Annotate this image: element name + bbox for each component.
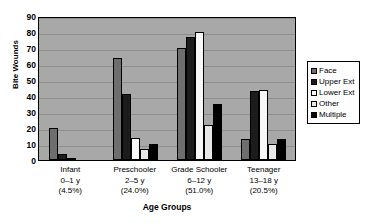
x-category-line-2: 6–12 y: [167, 176, 232, 187]
bar: [195, 32, 204, 160]
x-axis-title: Age Groups: [38, 202, 296, 212]
legend-label: Upper Ext: [319, 78, 355, 86]
legend-label: Lower Ext: [319, 89, 355, 97]
y-tick-10: 10: [14, 141, 36, 150]
x-category-line-1: Grade Schooler: [167, 165, 232, 176]
legend-label: Multiple: [319, 111, 347, 119]
legend-swatch-icon: [311, 68, 317, 74]
bar: [268, 144, 277, 160]
legend-item-face: Face: [311, 65, 355, 76]
bar-group: [39, 18, 103, 160]
y-tick-0: 0: [14, 157, 36, 166]
bar-chart-figure: Bite Wounds 0102030405060708090 Infant0–…: [0, 0, 376, 223]
y-tick-70: 70: [14, 45, 36, 54]
chart-legend: FaceUpper ExtLower ExtOtherMultiple: [307, 61, 360, 124]
bar: [140, 149, 149, 160]
x-category-label: Grade Schooler6–12 y(51.0%): [167, 165, 232, 197]
legend-item-upper-ext: Upper Ext: [311, 76, 355, 87]
legend-item-multiple: Multiple: [311, 109, 355, 120]
x-category-line-1: Preschooler: [103, 165, 168, 176]
y-tick-20: 20: [14, 125, 36, 134]
x-category-line-2: 13–18 y: [232, 176, 297, 187]
y-tick-80: 80: [14, 29, 36, 38]
legend-swatch-icon: [311, 101, 317, 107]
bar: [204, 125, 213, 160]
y-tick-40: 40: [14, 93, 36, 102]
bar: [58, 154, 67, 160]
x-category-line-3: (24.0%): [103, 186, 168, 197]
x-category-line-3: (20.5%): [232, 186, 297, 197]
x-category-label: Preschooler2–5 y(24.0%): [103, 165, 168, 197]
y-tick-60: 60: [14, 61, 36, 70]
plot-area: [38, 17, 296, 161]
bar: [149, 144, 158, 160]
bar: [113, 58, 122, 160]
x-category-line-2: 0–1 y: [38, 176, 103, 187]
bar-series-container: [39, 18, 295, 160]
legend-label: Other: [319, 100, 339, 108]
bar-group: [167, 18, 231, 160]
x-category-line-3: (4.5%): [38, 186, 103, 197]
y-tick-30: 30: [14, 109, 36, 118]
x-category-line-1: Infant: [38, 165, 103, 176]
x-axis-category-labels: Infant0–1 y(4.5%)Preschooler2–5 y(24.0%)…: [38, 165, 296, 197]
y-tick-90: 90: [14, 13, 36, 22]
legend-swatch-icon: [311, 90, 317, 96]
bar: [67, 158, 76, 160]
legend-item-lower-ext: Lower Ext: [311, 87, 355, 98]
legend-label: Face: [319, 67, 337, 75]
y-tick-50: 50: [14, 77, 36, 86]
bar: [177, 48, 186, 160]
bar: [186, 37, 195, 160]
bar: [259, 90, 268, 160]
bar: [131, 138, 140, 160]
bar: [213, 104, 222, 160]
x-category-label: Teenager13–18 y(20.5%): [232, 165, 297, 197]
bar: [241, 139, 250, 160]
x-category-line-2: 2–5 y: [103, 176, 168, 187]
x-category-line-3: (51.0%): [167, 186, 232, 197]
bar: [49, 128, 58, 160]
bar: [250, 91, 259, 160]
x-category-label: Infant0–1 y(4.5%): [38, 165, 103, 197]
legend-swatch-icon: [311, 112, 317, 118]
legend-swatch-icon: [311, 79, 317, 85]
bar: [277, 139, 286, 160]
legend-item-other: Other: [311, 98, 355, 109]
bar-group: [231, 18, 295, 160]
bar-group: [103, 18, 167, 160]
y-axis-tick-labels: 0102030405060708090: [14, 17, 36, 161]
bar: [122, 94, 131, 160]
x-category-line-1: Teenager: [232, 165, 297, 176]
